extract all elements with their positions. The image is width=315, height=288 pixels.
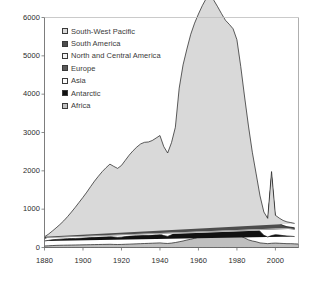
legend-label: South America [71, 39, 120, 48]
legend-swatch-icon [62, 90, 68, 96]
legend-item: Asia [62, 75, 182, 87]
legend-swatch-icon [62, 41, 68, 47]
x-tick-label: 1880 [28, 256, 62, 265]
legend-label: Asia [71, 76, 86, 85]
legend-item: South America [62, 37, 182, 49]
x-tick-label: 1980 [220, 256, 254, 265]
chart-legend: South-West PacificSouth AmericaNorth and… [62, 25, 182, 112]
legend-label: South-West Pacific [71, 27, 135, 36]
legend-swatch-icon [62, 65, 68, 71]
y-tick-label: 6000 [6, 13, 40, 22]
y-tick-label: 3000 [6, 128, 40, 137]
legend-label: Europe [71, 64, 96, 73]
y-tick-label: 2000 [6, 166, 40, 175]
x-tick-label: 1920 [104, 256, 138, 265]
x-tick-label: 1940 [143, 256, 177, 265]
y-tick-label: 4000 [6, 89, 40, 98]
chart-container: 0100020003000400050006000 18801900192019… [0, 0, 315, 288]
legend-item: North and Central America [62, 50, 182, 62]
y-tick-label: 5000 [6, 51, 40, 60]
y-tick-label: 1000 [6, 204, 40, 213]
legend-swatch-icon [62, 53, 68, 59]
x-tick-label: 2000 [258, 256, 292, 265]
legend-item: Antarctic [62, 87, 182, 99]
legend-label: Africa [71, 101, 90, 110]
legend-item: Europe [62, 62, 182, 74]
legend-swatch-icon [62, 78, 68, 84]
legend-item: South-West Pacific [62, 25, 182, 37]
x-tick-label: 1960 [181, 256, 215, 265]
legend-swatch-icon [62, 28, 68, 34]
legend-label: Antarctic [71, 89, 101, 98]
x-tick-label: 1900 [66, 256, 100, 265]
legend-item: Africa [62, 99, 182, 111]
legend-swatch-icon [62, 103, 68, 109]
legend-label: North and Central America [71, 51, 161, 60]
y-tick-label: 0 [6, 243, 40, 252]
